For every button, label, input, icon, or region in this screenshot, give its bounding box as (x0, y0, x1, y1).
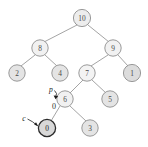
edge-6-3 (70, 106, 86, 121)
tree-canvas: 10 8 9 2 4 7 1 (0, 0, 148, 147)
edge-9-7 (91, 55, 108, 66)
tree-node-8[interactable]: 8 (32, 40, 48, 56)
edge-label-zero: 0 (52, 102, 56, 111)
pointer-p: p (48, 85, 58, 100)
edge-9-1 (118, 55, 128, 66)
tree-node-9-label: 9 (111, 44, 115, 53)
tree-node-1[interactable]: 1 (123, 64, 140, 81)
tree-node-3-label: 3 (88, 124, 92, 133)
pointer-p-label: p (48, 85, 53, 94)
tree-node-10[interactable]: 10 (73, 9, 90, 26)
edge-8-4 (45, 55, 57, 66)
tree-node-0[interactable]: 0 (38, 119, 55, 136)
tree-node-4-label: 4 (58, 69, 62, 78)
pointer-c-label: c (22, 114, 26, 123)
edge-7-5 (92, 80, 106, 93)
pointer-c-arrowhead (34, 122, 38, 126)
pointer-c: c (22, 114, 38, 127)
tree-node-4[interactable]: 4 (52, 65, 68, 81)
tree-node-0-label: 0 (45, 124, 49, 133)
edge-10-8 (44, 25, 77, 42)
tree-node-7-label: 7 (85, 69, 89, 78)
tree-node-9[interactable]: 9 (105, 40, 121, 56)
tree-node-6[interactable]: 6 (57, 91, 73, 107)
tree-node-10-label: 10 (78, 14, 86, 23)
tree-node-2[interactable]: 2 (9, 65, 25, 81)
tree-node-2-label: 2 (15, 69, 19, 78)
tree-node-8-label: 8 (38, 44, 42, 53)
binary-tree-figure: 10 8 9 2 4 7 1 (0, 0, 148, 147)
edge-8-2 (21, 55, 35, 66)
edge-label-group: 0 (52, 102, 56, 111)
tree-node-3[interactable]: 3 (82, 120, 98, 136)
edge-10-9 (88, 25, 109, 42)
node-group: 10 8 9 2 4 7 1 (9, 9, 141, 136)
tree-node-1-label: 1 (130, 69, 134, 78)
tree-node-7[interactable]: 7 (79, 65, 95, 81)
tree-node-6-label: 6 (63, 95, 67, 104)
tree-node-5-label: 5 (108, 95, 112, 104)
tree-node-5[interactable]: 5 (102, 91, 118, 107)
edge-7-6 (70, 80, 83, 93)
